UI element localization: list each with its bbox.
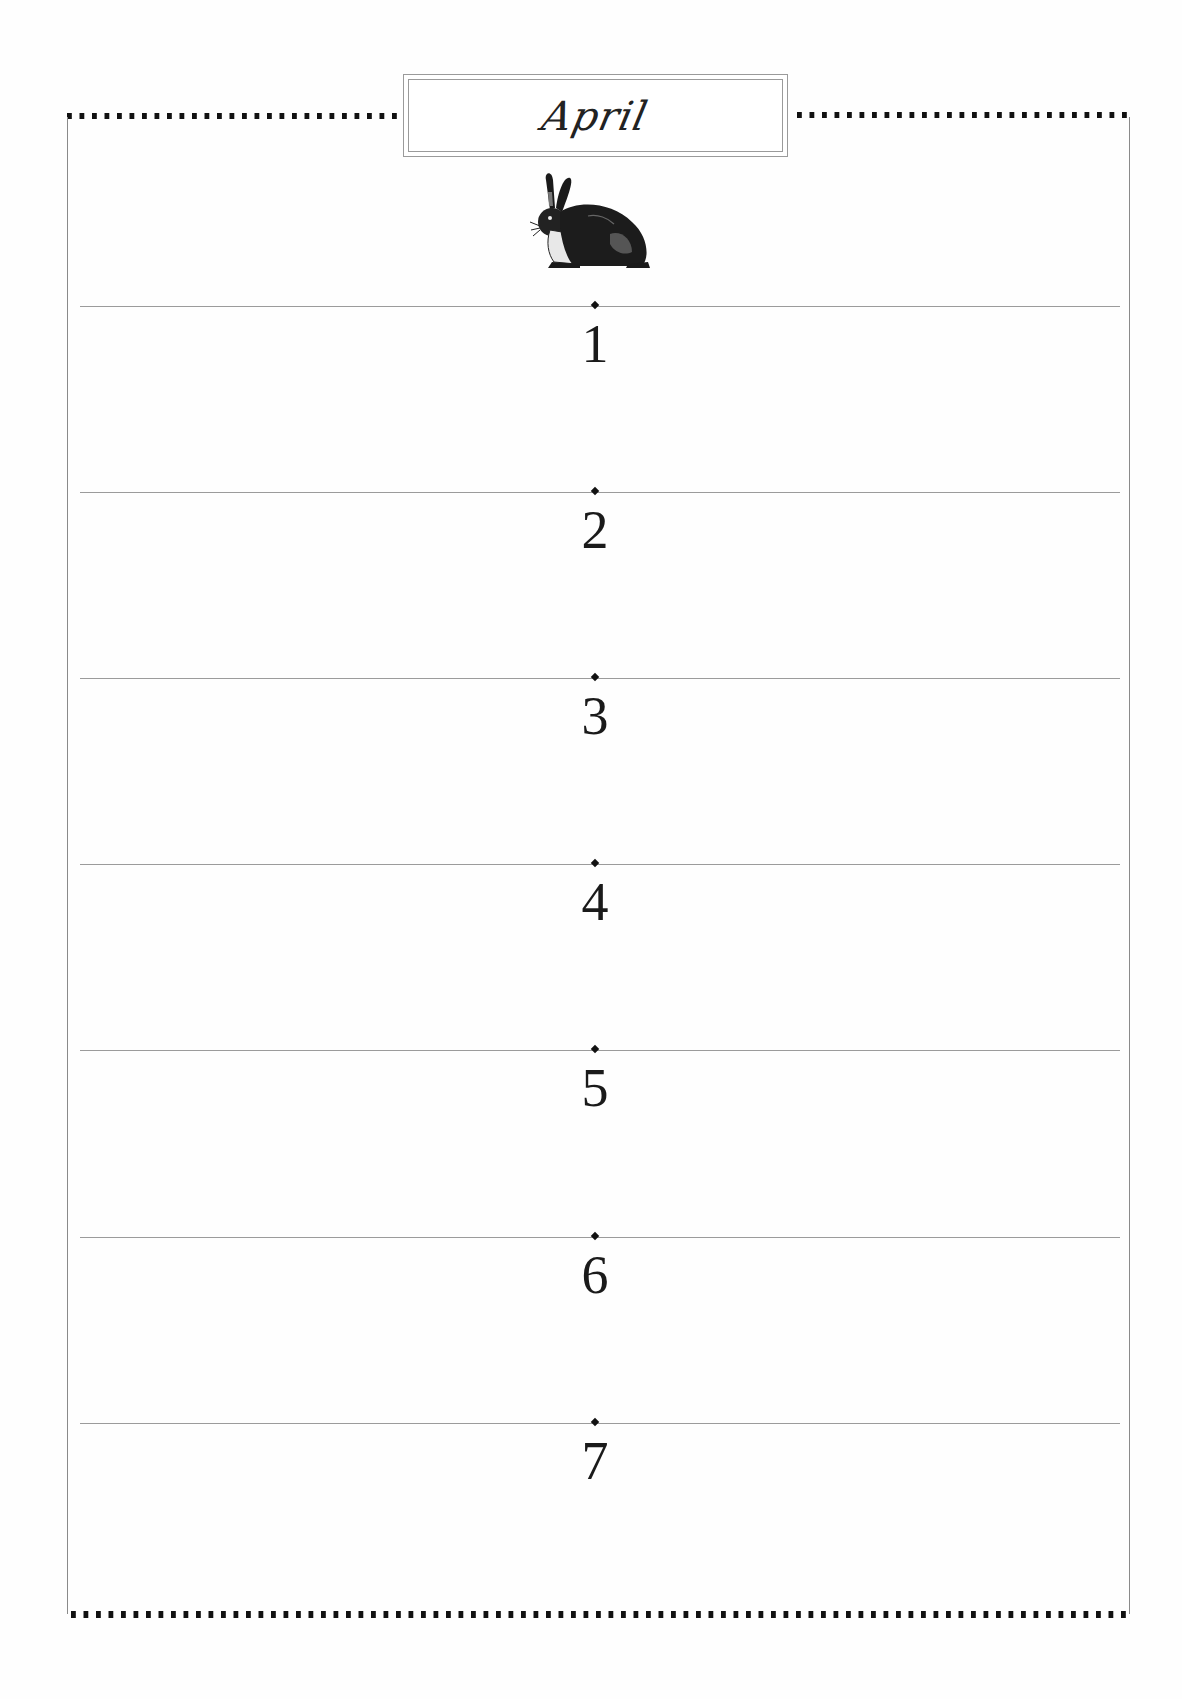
- day-number: 2: [80, 500, 1110, 560]
- left-border: [67, 117, 68, 1614]
- day-number: 1: [80, 314, 1110, 374]
- day-row[interactable]: 2: [80, 492, 1120, 678]
- day-divider-line: [80, 1423, 1120, 1424]
- day-number: 7: [80, 1431, 1110, 1491]
- right-border: [1129, 117, 1130, 1614]
- top-dotted-border-left: [67, 113, 397, 119]
- bottom-dotted-border: [71, 1611, 1133, 1618]
- top-dotted-border-right: [797, 112, 1133, 118]
- day-row[interactable]: 3: [80, 678, 1120, 864]
- month-title: April: [539, 93, 653, 139]
- day-divider-line: [80, 306, 1120, 307]
- month-title-inner-frame: April: [408, 79, 783, 152]
- day-row[interactable]: 4: [80, 864, 1120, 1050]
- day-divider-line: [80, 492, 1120, 493]
- day-divider-line: [80, 1050, 1120, 1051]
- day-number: 3: [80, 686, 1110, 746]
- day-row[interactable]: 1: [80, 306, 1120, 492]
- day-row[interactable]: 6: [80, 1237, 1120, 1423]
- day-number: 6: [80, 1245, 1110, 1305]
- month-title-box: April: [403, 74, 788, 157]
- day-divider-line: [80, 864, 1120, 865]
- day-number: 4: [80, 872, 1110, 932]
- day-divider-line: [80, 1237, 1120, 1238]
- rabbit-icon: [528, 172, 652, 270]
- day-row[interactable]: 5: [80, 1050, 1120, 1236]
- day-row[interactable]: 7: [80, 1423, 1120, 1609]
- day-divider-line: [80, 678, 1120, 679]
- day-number: 5: [80, 1058, 1110, 1118]
- diamond-marker-icon: [591, 301, 599, 309]
